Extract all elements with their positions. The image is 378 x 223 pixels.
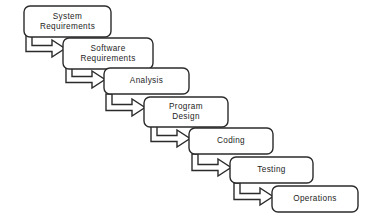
stage-label-line: Requirements <box>80 54 135 63</box>
stage-boxes-layer: SystemRequirementsSoftwareRequirementsAn… <box>24 6 358 212</box>
stage-label-line: Analysis <box>130 76 163 85</box>
stage-label-line: System <box>53 12 82 21</box>
stage-testing[interactable]: Testing <box>230 157 313 183</box>
arrow-system-to-software-icon <box>26 35 65 57</box>
waterfall-diagram: SystemRequirementsSoftwareRequirementsAn… <box>0 0 378 223</box>
stage-coding[interactable]: Coding <box>189 128 273 154</box>
stage-label-operations: Operations <box>293 194 337 203</box>
stage-label-line: Software <box>90 44 125 53</box>
stage-software-requirements[interactable]: SoftwareRequirements <box>63 38 153 69</box>
stage-label-analysis: Analysis <box>130 76 163 85</box>
stage-label-line: Coding <box>217 136 245 145</box>
stage-label-coding: Coding <box>217 136 245 145</box>
stage-label-line: Testing <box>257 165 285 174</box>
waterfall-diagram-canvas: SystemRequirementsSoftwareRequirementsAn… <box>0 0 378 223</box>
stage-label-testing: Testing <box>257 165 285 174</box>
stage-analysis[interactable]: Analysis <box>104 68 189 94</box>
arrow-program-design-to-coding-icon <box>151 125 190 147</box>
stage-system-requirements[interactable]: SystemRequirements <box>24 6 111 37</box>
stage-program-design[interactable]: ProgramDesign <box>144 97 228 127</box>
arrow-coding-to-testing-icon <box>192 154 231 176</box>
stage-label-line: Design <box>172 112 200 121</box>
stage-label-line: Program <box>169 102 203 111</box>
arrow-analysis-to-program-design-icon <box>106 94 145 116</box>
stage-label-line: Operations <box>293 194 337 203</box>
stage-operations[interactable]: Operations <box>272 186 358 212</box>
stage-label-program-design: ProgramDesign <box>169 102 203 121</box>
arrow-testing-to-operations-icon <box>234 183 273 205</box>
stage-label-line: Requirements <box>40 22 95 31</box>
